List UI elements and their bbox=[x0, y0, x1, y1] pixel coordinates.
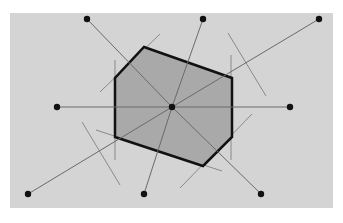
center-point bbox=[169, 104, 175, 110]
site-point bbox=[258, 191, 264, 197]
site-point bbox=[287, 104, 293, 110]
site-point bbox=[25, 191, 31, 197]
site-point bbox=[141, 191, 147, 197]
site-point bbox=[316, 16, 322, 22]
site-point bbox=[200, 16, 206, 22]
voronoi-diagram bbox=[0, 0, 343, 223]
site-point bbox=[54, 104, 60, 110]
site-point bbox=[84, 16, 90, 22]
